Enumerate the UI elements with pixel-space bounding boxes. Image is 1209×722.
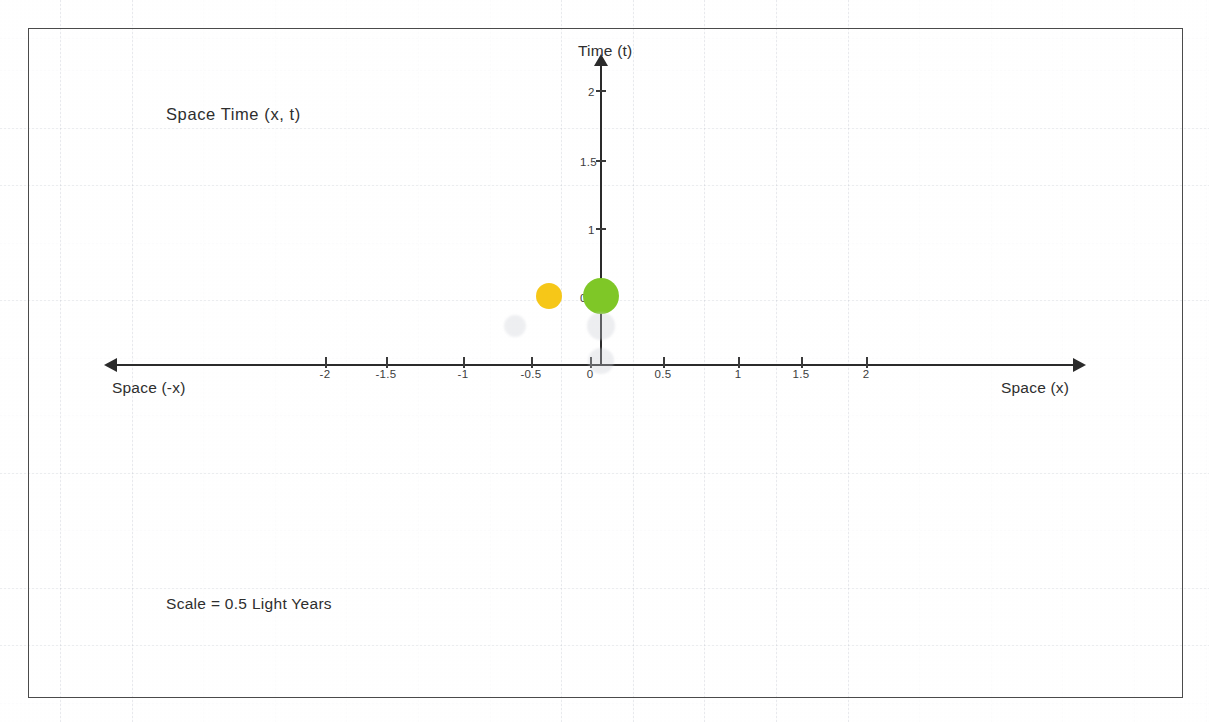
x-axis-tick	[386, 357, 388, 368]
y-axis-tick	[596, 228, 606, 230]
ghost-center	[587, 312, 615, 340]
x-axis-tick	[325, 357, 327, 368]
x-axis-tick	[463, 357, 465, 368]
arrow-right-icon	[1073, 358, 1086, 372]
y-axis-tick-label: 1	[588, 224, 595, 236]
spacetime-diagram-page: -2-1.5-1-0.500.511.52 0.511.52 Space Tim…	[0, 0, 1209, 722]
arrow-left-icon	[104, 358, 117, 372]
x-axis-tick	[663, 357, 665, 368]
diagram-title: Space Time (x, t)	[166, 105, 301, 124]
x-axis-tick	[866, 357, 868, 368]
scale-note: Scale = 0.5 Light Years	[166, 595, 332, 613]
event-yellow	[536, 283, 562, 309]
x-axis-tick	[801, 357, 803, 368]
y-axis-label: Time (t)	[578, 42, 632, 60]
x-axis-label-positive: Space (x)	[1001, 379, 1069, 397]
ghost-left	[504, 315, 526, 337]
y-axis-tick	[596, 160, 606, 162]
x-axis-tick-label: 0.5	[655, 368, 672, 380]
y-axis-tick-label: 1.5	[580, 156, 597, 168]
x-axis-tick-label: -2	[320, 368, 331, 380]
ghost-origin	[588, 348, 614, 374]
x-axis-tick	[531, 357, 533, 368]
x-axis-tick-label: 2	[863, 368, 870, 380]
x-axis-tick	[738, 357, 740, 368]
x-axis-tick-label: -1	[458, 368, 469, 380]
y-axis-tick	[596, 90, 606, 92]
event-green	[583, 278, 619, 314]
x-axis-tick-label: -0.5	[520, 368, 541, 380]
x-axis-label-negative: Space (-x)	[112, 379, 186, 397]
y-axis-tick-label: 2	[588, 86, 595, 98]
x-axis-tick-label: 1	[735, 368, 742, 380]
x-axis-tick-label: -1.5	[375, 368, 396, 380]
x-axis-tick-label: 1.5	[793, 368, 810, 380]
